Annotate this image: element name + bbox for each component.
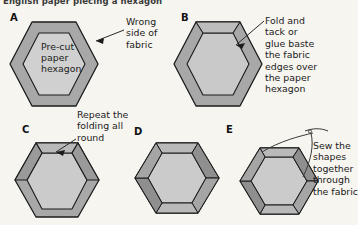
panel-e-callout-line-5: the fabric xyxy=(313,186,358,197)
thread-tail-path xyxy=(303,133,312,177)
panel-e-callout-line-2: shapes xyxy=(313,151,358,162)
panel-e-callout-line-3: together xyxy=(313,163,358,174)
panel-e-needle-and-thread xyxy=(0,0,358,225)
panel-e-callout-line-4: through xyxy=(313,174,358,185)
panel-e-callout: Sew the shapes together through the fabr… xyxy=(313,140,358,197)
thread-path xyxy=(262,133,313,152)
figure-english-paper-piecing: English paper piecing a hexagon A Pre-cu… xyxy=(0,0,358,225)
panel-e-callout-line-1: Sew the xyxy=(313,140,358,151)
needle-eye-icon xyxy=(308,130,311,133)
